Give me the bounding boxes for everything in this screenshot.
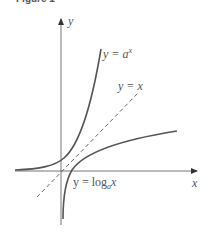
exponential-curve: [15, 49, 101, 170]
exponential-label: y = ax: [102, 46, 132, 61]
x-axis-label: x: [191, 176, 198, 190]
logarithm-label: y = logax: [73, 175, 117, 191]
y-axis-label: y: [67, 14, 74, 28]
log-exp-diagram: y x y = ax y = x y = logax: [0, 0, 210, 234]
identity-label: y = x: [117, 79, 143, 93]
